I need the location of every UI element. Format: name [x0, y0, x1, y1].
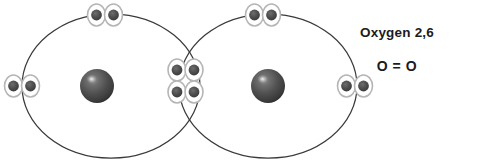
diagram-labels: Oxygen 2,6 O = O: [327, 26, 467, 74]
shared-double-bond-electrons: [168, 59, 203, 103]
electron-dot: [358, 81, 369, 92]
electron-dot: [172, 65, 183, 76]
electron-dot: [189, 87, 200, 98]
electron-dot: [249, 10, 260, 21]
diagram-canvas: Oxygen 2,6 O = O: [0, 0, 481, 160]
electron-dot: [266, 10, 277, 21]
lone-pair-right-outer: [338, 75, 373, 97]
lone-pair-left-top: [88, 4, 123, 26]
nucleus-right-atom: [251, 69, 285, 103]
electron-dot: [189, 65, 200, 76]
electron-dot: [25, 81, 36, 92]
bond-formula-label: O = O: [327, 59, 467, 74]
electron-dot: [341, 81, 352, 92]
electron-dot: [108, 10, 119, 21]
electron-dot: [172, 87, 183, 98]
nucleus-left-atom: [80, 69, 114, 103]
electron-dot: [91, 10, 102, 21]
lone-pair-right-top: [246, 4, 281, 26]
element-name-label: Oxygen 2,6: [327, 26, 467, 41]
oxygen-molecule-diagram: [0, 0, 481, 160]
electron-dot: [8, 81, 19, 92]
